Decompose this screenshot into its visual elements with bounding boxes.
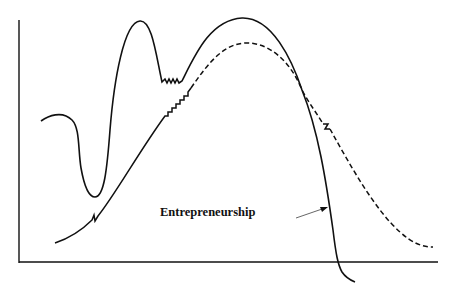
dashed-curve-break — [323, 124, 330, 129]
pointer-arrow — [296, 208, 325, 218]
diagram-canvas — [0, 0, 453, 294]
arrow-head-icon — [320, 207, 328, 212]
dashed-curve-tail — [330, 129, 433, 247]
solid-curve — [41, 18, 355, 282]
dashed-curve-segment — [191, 43, 323, 124]
entrepreneurship-label: Entrepreneurship — [160, 205, 255, 220]
